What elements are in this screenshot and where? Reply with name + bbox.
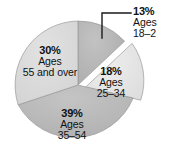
pie-label-line2: 35–54 (39, 130, 105, 141)
pie-chart-screenshot: 13% Ages 18–2 18% Ages 25–34 39% Ages 35… (0, 0, 174, 157)
pie-label-ages-25-34: 18% Ages 25–34 (84, 66, 138, 99)
pie-label-ages-18-24: 13% Ages 18–2 (133, 6, 157, 39)
pie-label-line2: 25–34 (84, 88, 138, 99)
pie-label-line2: 18–2 (133, 28, 157, 39)
pie-label-line2: 55 and over (10, 67, 90, 78)
pie-label-ages-55-and-over: 30% Ages 55 and over (10, 45, 90, 78)
pie-label-ages-35-54: 39% Ages 35–54 (39, 108, 105, 141)
